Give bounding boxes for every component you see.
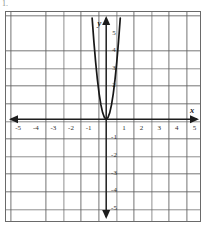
x-tick-label: -1 xyxy=(86,124,92,132)
x-tick-label: 2 xyxy=(140,124,144,132)
y-tick-label: 5 xyxy=(112,29,116,37)
y-tick-label: -5 xyxy=(111,204,117,212)
y-tick-label: -1 xyxy=(111,133,117,141)
x-tick-label: -5 xyxy=(15,124,21,132)
arrow-up-icon xyxy=(102,16,110,25)
x-tick-label: -3 xyxy=(50,124,56,132)
figure-container: 1. x y -5 -4 -3 -2 -1 1 2 3 4 5 xyxy=(0,0,205,226)
problem-number: 1. xyxy=(2,0,8,8)
x-tick-label: -2 xyxy=(68,124,74,132)
y-tick-label: -4 xyxy=(111,186,117,194)
y-tick-label: 4 xyxy=(112,46,116,54)
x-tick-label: 3 xyxy=(157,124,161,132)
x-tick-label: 4 xyxy=(175,124,179,132)
x-tick-label: -4 xyxy=(33,124,39,132)
arrow-down-icon xyxy=(102,210,110,219)
x-axis-label: x xyxy=(189,105,195,115)
y-axis-label: y xyxy=(97,18,102,28)
y-tick-label: -2 xyxy=(111,151,117,159)
plot-overlay: x y -5 -4 -3 -2 -1 1 2 3 4 5 5 4 3 2 -1 … xyxy=(6,12,201,222)
x-tick-label: 5 xyxy=(193,124,197,132)
x-tick-label: 1 xyxy=(122,124,126,132)
arrow-left-icon xyxy=(9,115,18,123)
y-tick-label: -3 xyxy=(111,169,117,177)
arrow-right-icon xyxy=(190,115,199,123)
coordinate-plane: x y -5 -4 -3 -2 -1 1 2 3 4 5 5 4 3 2 -1 … xyxy=(5,11,201,222)
